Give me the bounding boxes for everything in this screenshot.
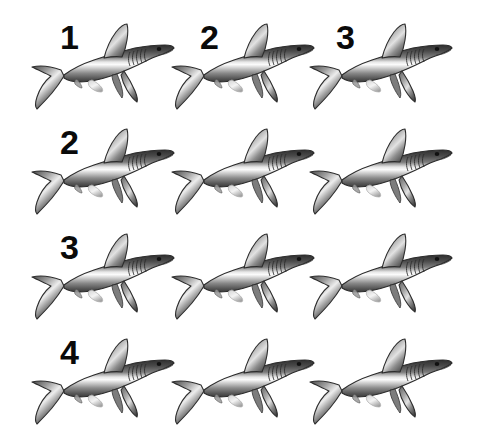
shark-illustration bbox=[296, 113, 466, 221]
dorsal-fin bbox=[104, 339, 128, 373]
caudal-fin bbox=[310, 66, 342, 109]
shark-r4-c3 bbox=[296, 323, 466, 431]
shark-r1-c3 bbox=[296, 8, 466, 116]
shark-grid-canvas: 123 bbox=[0, 0, 503, 437]
dorsal-fin bbox=[382, 339, 406, 373]
pelvic-fin bbox=[228, 395, 242, 407]
eye bbox=[435, 257, 440, 261]
pelvic-fin bbox=[88, 80, 102, 92]
caudal-fin bbox=[172, 66, 204, 109]
caudal-fin bbox=[310, 381, 342, 424]
shark-illustration bbox=[296, 323, 466, 431]
shark-r3-c3 bbox=[296, 218, 466, 326]
pectoral-fin bbox=[399, 71, 415, 102]
dorsal-fin bbox=[244, 339, 268, 373]
dorsal-fin bbox=[104, 234, 128, 268]
pelvic-fin bbox=[366, 80, 380, 92]
caudal-fin bbox=[32, 381, 64, 424]
count-label-r4-1: 4 bbox=[60, 335, 78, 369]
dorsal-fin bbox=[382, 234, 406, 268]
dorsal-fin bbox=[382, 24, 406, 58]
pelvic-fin bbox=[88, 395, 102, 407]
eye bbox=[435, 47, 440, 51]
pectoral-fin bbox=[261, 386, 277, 417]
pectoral-fin bbox=[399, 386, 415, 417]
pectoral-fin bbox=[121, 281, 137, 312]
dorsal-fin bbox=[104, 24, 128, 58]
count-label-r1-1: 1 bbox=[60, 20, 78, 54]
dorsal-fin bbox=[244, 234, 268, 268]
caudal-fin bbox=[32, 276, 64, 319]
count-label-r3-1: 3 bbox=[60, 230, 78, 264]
shark-illustration bbox=[296, 218, 466, 326]
dorsal-fin bbox=[382, 129, 406, 163]
pectoral-fin bbox=[399, 176, 415, 207]
shark-r2-c3 bbox=[296, 113, 466, 221]
count-label-r1-2: 2 bbox=[200, 20, 218, 54]
shark-illustration bbox=[296, 8, 466, 116]
dorsal-fin bbox=[244, 129, 268, 163]
pelvic-fin bbox=[88, 185, 102, 197]
caudal-fin bbox=[172, 171, 204, 214]
eye bbox=[435, 152, 440, 156]
pelvic-fin bbox=[228, 185, 242, 197]
pectoral-fin bbox=[261, 71, 277, 102]
pelvic-fin bbox=[366, 185, 380, 197]
pelvic-fin bbox=[366, 290, 380, 302]
pectoral-fin bbox=[399, 281, 415, 312]
pectoral-fin bbox=[261, 176, 277, 207]
caudal-fin bbox=[310, 171, 342, 214]
count-label-r2-1: 2 bbox=[60, 125, 78, 159]
dorsal-fin bbox=[244, 24, 268, 58]
pelvic-fin bbox=[88, 290, 102, 302]
count-label-r1-3: 3 bbox=[336, 20, 354, 54]
pelvic-fin bbox=[228, 290, 242, 302]
dorsal-fin bbox=[104, 129, 128, 163]
caudal-fin bbox=[172, 276, 204, 319]
pectoral-fin bbox=[121, 71, 137, 102]
caudal-fin bbox=[32, 171, 64, 214]
caudal-fin bbox=[32, 66, 64, 109]
eye bbox=[435, 362, 440, 366]
pelvic-fin bbox=[228, 80, 242, 92]
pectoral-fin bbox=[121, 176, 137, 207]
caudal-fin bbox=[172, 381, 204, 424]
pectoral-fin bbox=[121, 386, 137, 417]
pectoral-fin bbox=[261, 281, 277, 312]
pelvic-fin bbox=[366, 395, 380, 407]
caudal-fin bbox=[310, 276, 342, 319]
